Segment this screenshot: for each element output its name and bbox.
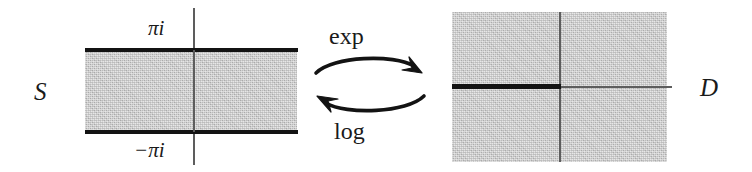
- curved-arrow-left-icon: [317, 96, 424, 112]
- disc-positive-real-axis: [560, 86, 672, 88]
- disc-set-label: D: [700, 75, 718, 100]
- curved-arrow-right-icon: [316, 57, 422, 73]
- exp-log-conformal-map-figure: S πi −πi exp log D: [0, 0, 752, 172]
- disc-branch-cut: [452, 84, 561, 89]
